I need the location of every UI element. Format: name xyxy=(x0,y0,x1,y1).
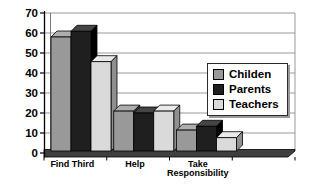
svg-text:10: 10 xyxy=(25,127,38,139)
legend-label-children: Childen xyxy=(229,68,271,81)
legend-label-teachers: Teachers xyxy=(229,98,279,111)
legend-label-parents: Parents xyxy=(229,83,271,96)
legend-swatch-children xyxy=(213,69,224,80)
legend-item-children: Childen xyxy=(213,68,279,81)
svg-text:70: 70 xyxy=(25,7,38,19)
legend-item-parents: Parents xyxy=(213,83,279,96)
svg-text:40: 40 xyxy=(25,67,38,79)
svg-text:30: 30 xyxy=(25,87,38,99)
svg-text:Find Third: Find Third xyxy=(50,159,94,169)
legend-swatch-teachers xyxy=(213,99,224,110)
svg-text:TakeResponsibility: TakeResponsibility xyxy=(167,159,229,178)
svg-text:50: 50 xyxy=(25,47,38,59)
chart-canvas: 010203040506070Find ThirdHelpTakeRespons… xyxy=(0,0,309,185)
svg-text:20: 20 xyxy=(25,107,38,119)
chart-legend: Childen Parents Teachers xyxy=(207,63,288,116)
svg-text:60: 60 xyxy=(25,27,38,39)
legend-swatch-parents xyxy=(213,84,224,95)
svg-text:0: 0 xyxy=(32,147,38,159)
svg-text:Help: Help xyxy=(125,159,145,169)
legend-item-teachers: Teachers xyxy=(213,98,279,111)
